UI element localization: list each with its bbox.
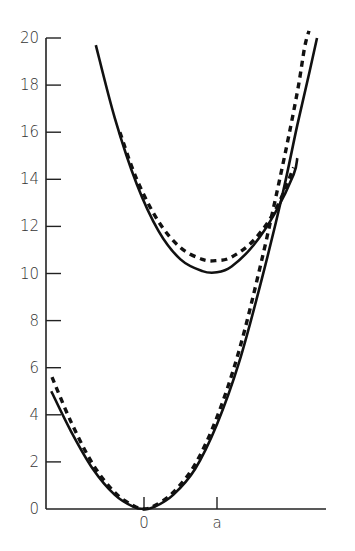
y-tick-label: 10 [20,265,39,283]
y-tick-label: 18 [20,76,39,94]
y-tick-label: 2 [29,453,39,471]
upper-dashed-curve [120,132,294,261]
y-tick-label: 4 [29,406,39,424]
y-tick-label: 14 [20,170,39,188]
y-tick-label: 8 [29,312,39,330]
y-tick-label: 6 [29,359,39,377]
y-tick-label: 20 [20,29,39,47]
lower-solid-curve [51,38,317,509]
series-group [51,31,317,509]
lower-dashed-curve [52,31,309,509]
x-tick-label: a [212,514,221,532]
axes: 024681012141618200a [20,29,326,532]
y-tick-label: 16 [20,123,39,141]
y-tick-label: 12 [20,217,39,235]
y-tick-label: 0 [29,500,39,518]
chart: 024681012141618200a [0,0,355,551]
x-tick-label: 0 [139,514,149,532]
